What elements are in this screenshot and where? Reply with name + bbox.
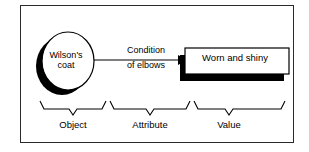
- bracket-object: [40, 101, 106, 115]
- bracket-label-value: Value: [198, 119, 260, 130]
- object-node-label-line-2: coat: [57, 60, 74, 70]
- object-node-label: Wilson's coat: [42, 50, 90, 70]
- diagram-canvas: Wilson's coat Condition of elbows Worn a…: [0, 0, 309, 152]
- edge-label: Condition of elbows: [111, 44, 181, 71]
- value-node-label: Worn and shiny: [186, 53, 284, 63]
- object-node-label-line-1: Wilson's: [49, 50, 82, 60]
- bracket-value: [194, 101, 285, 115]
- bracket-label-object: Object: [43, 119, 103, 130]
- edge-label-line-2: of elbows: [111, 59, 181, 71]
- edge-label-line-1: Condition: [111, 44, 181, 56]
- bracket-attribute: [110, 101, 190, 115]
- bracket-label-attribute: Attribute: [117, 119, 183, 130]
